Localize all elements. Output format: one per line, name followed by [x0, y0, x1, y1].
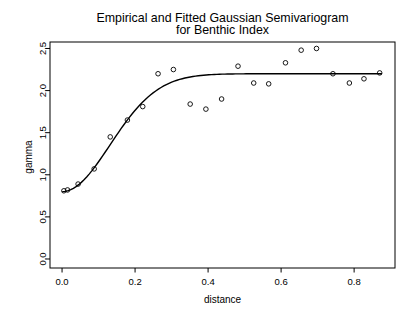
x-tick-label: 0.8	[348, 276, 361, 287]
x-tick-label: 0.6	[274, 276, 287, 287]
data-point	[108, 135, 113, 140]
data-point	[299, 48, 304, 53]
y-tick-label: 2.0	[37, 84, 48, 97]
x-tick-label: 0.0	[55, 276, 68, 287]
x-axis-label: distance	[50, 295, 395, 305]
y-tick-label: 2.5	[37, 42, 48, 55]
y-tick-label: 1.0	[37, 168, 48, 181]
data-point	[266, 82, 271, 87]
data-point	[283, 61, 288, 66]
data-point	[314, 46, 319, 51]
data-point	[362, 77, 367, 82]
data-point	[188, 102, 193, 107]
fitted-curve	[63, 74, 382, 192]
data-point	[204, 107, 209, 112]
semivariogram-chart: 0.00.20.40.60.80.00.51.01.52.02.5 Empiri…	[0, 0, 413, 320]
y-axis-label: gamma	[24, 140, 34, 173]
data-point	[251, 81, 256, 86]
plot-area: 0.00.20.40.60.80.00.51.01.52.02.5	[0, 0, 413, 320]
x-tick-label: 0.4	[201, 276, 214, 287]
y-tick-label: 0.0	[37, 252, 48, 265]
data-point	[140, 104, 145, 109]
plot-box	[50, 42, 395, 268]
data-point	[219, 97, 224, 102]
y-tick-label: 1.5	[37, 126, 48, 139]
data-point	[347, 81, 352, 86]
chart-title: Empirical and Fitted Gaussian Semivariog…	[50, 12, 395, 37]
chart-title-line2: for Benthic Index	[50, 24, 395, 36]
data-point	[156, 71, 161, 76]
data-point	[171, 67, 176, 72]
y-tick-label: 0.5	[37, 210, 48, 223]
data-point	[377, 71, 382, 76]
x-tick-label: 0.2	[128, 276, 141, 287]
data-point	[236, 64, 241, 69]
